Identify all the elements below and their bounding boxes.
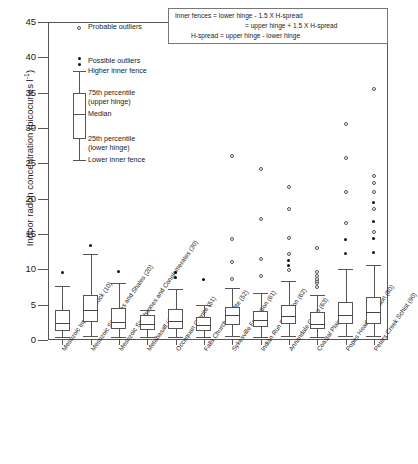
interquartile-box — [310, 312, 325, 329]
median-line — [196, 325, 211, 326]
upper-inner-fence-cap — [196, 305, 211, 306]
y-tick — [38, 163, 48, 164]
lower-whisker — [346, 324, 347, 337]
legend-probable-outliers-label: Probable outliers — [88, 22, 142, 31]
y-tick — [38, 22, 48, 23]
lower-whisker — [176, 329, 177, 337]
interquartile-box — [111, 308, 126, 329]
legend-lower-hinge-label-1: 25th percentile — [88, 134, 135, 143]
probable-outlier-marker — [372, 230, 376, 234]
probable-outlier-marker — [287, 207, 291, 211]
upper-whisker — [261, 293, 262, 311]
median-line — [253, 320, 268, 321]
upper-whisker — [232, 288, 233, 308]
upper-whisker — [317, 295, 318, 312]
probable-outlier-marker — [372, 174, 376, 178]
upper-inner-fence-cap — [168, 289, 183, 290]
median-line — [140, 324, 155, 325]
interquartile-box — [196, 317, 211, 330]
legend-median-label: Median — [88, 109, 112, 118]
upper-inner-fence-cap — [83, 254, 98, 255]
y-tick-label: 0 — [0, 334, 36, 345]
lower-whisker — [374, 324, 375, 337]
y-tick-label: 45 — [0, 16, 36, 27]
lower-whisker — [317, 329, 318, 337]
legend-lower-hinge-label-2: (lower hinge) — [88, 143, 130, 152]
fence-note-line-3: H-spread = upper hinge - lower hinge — [191, 32, 300, 39]
legend-lower-inner-fence-label: Lower inner fence — [88, 155, 145, 164]
y-tick-label: 5 — [0, 299, 36, 310]
median-line — [310, 324, 325, 325]
legend-probable-outlier-icon — [77, 26, 81, 30]
y-axis-title: Indoor radon concentration (picocuries l… — [23, 43, 35, 273]
interquartile-box — [140, 315, 155, 330]
interquartile-box — [281, 305, 296, 324]
median-line — [338, 315, 353, 316]
probable-outlier-marker — [344, 122, 348, 126]
y-tick — [38, 234, 48, 235]
legend-upper-hinge-label-2: (upper hinge) — [88, 97, 131, 106]
probable-outlier-marker — [315, 274, 319, 278]
interquartile-box — [366, 297, 381, 324]
interquartile-box — [168, 309, 183, 329]
legend-possible-outliers-label: Possible outliers — [88, 56, 140, 65]
lower-whisker — [232, 325, 233, 336]
interquartile-box — [338, 302, 353, 324]
upper-whisker — [91, 254, 92, 295]
possible-outlier-marker — [89, 244, 92, 247]
probable-outlier-marker — [344, 156, 348, 160]
lower-inner-fence-cap — [225, 336, 240, 337]
median-line — [225, 315, 240, 316]
lower-whisker — [289, 324, 290, 336]
probable-outlier-marker — [259, 167, 263, 171]
possible-outlier-marker — [61, 271, 64, 274]
probable-outlier-marker — [287, 236, 291, 240]
probable-outlier-marker — [259, 274, 263, 278]
lower-inner-fence-cap — [281, 336, 296, 337]
probable-outlier-marker — [259, 217, 263, 221]
probable-outlier-marker — [344, 221, 348, 225]
legend-lower-fence-cap — [73, 160, 86, 161]
probable-outlier-marker — [372, 87, 376, 91]
lower-whisker — [261, 327, 262, 337]
interquartile-box — [55, 310, 70, 330]
probable-outlier-marker — [372, 181, 376, 185]
lower-inner-fence-cap — [338, 336, 353, 337]
upper-whisker — [289, 281, 290, 305]
legend-higher-inner-fence-label: Higher inner fence — [88, 66, 147, 75]
upper-inner-fence-cap — [366, 265, 381, 266]
lower-whisker — [147, 330, 148, 337]
upper-whisker — [176, 289, 177, 309]
lower-inner-fence-cap — [310, 337, 325, 338]
lower-inner-fence-cap — [366, 336, 381, 337]
legend-upper-hinge-label-1: 75th percentile — [88, 88, 135, 97]
median-line — [55, 323, 70, 324]
inner-fence-definition-box: Inner fences = lower hinge - 1.5 X H-spr… — [168, 8, 388, 44]
probable-outlier-marker — [372, 207, 376, 211]
median-line — [83, 310, 98, 311]
interquartile-box — [83, 295, 98, 322]
legend-possible-outlier-icon-a — [78, 57, 81, 60]
probable-outlier-marker — [372, 190, 376, 194]
y-tick — [38, 93, 48, 94]
lower-whisker — [119, 329, 120, 337]
upper-inner-fence-cap — [338, 269, 353, 270]
probable-outlier-marker — [230, 154, 234, 158]
legend-median-line — [73, 114, 86, 115]
upper-inner-fence-cap — [225, 288, 240, 289]
median-line — [366, 312, 381, 313]
y-tick — [38, 305, 48, 306]
y-tick — [38, 57, 48, 58]
possible-outlier-marker — [174, 271, 177, 274]
upper-whisker — [204, 305, 205, 318]
probable-outlier-marker — [287, 268, 291, 272]
median-line — [111, 322, 126, 323]
upper-inner-fence-cap — [140, 310, 155, 311]
y-tick — [38, 128, 48, 129]
upper-whisker — [346, 269, 347, 302]
fence-note-line-1: Inner fences = lower hinge - 1.5 X H-spr… — [175, 12, 303, 19]
y-tick — [38, 199, 48, 200]
lower-inner-fence-cap — [111, 337, 126, 338]
lower-inner-fence-cap — [168, 337, 183, 338]
